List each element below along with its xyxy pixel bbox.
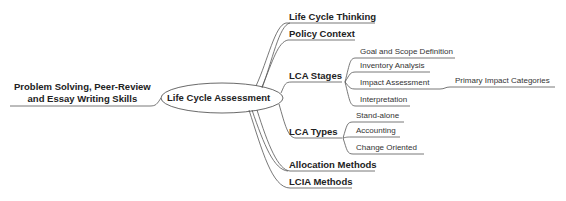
left-branch-line2: and Essay Writing Skills bbox=[14, 93, 151, 105]
node-lca-types[interactable]: LCA Types bbox=[289, 127, 338, 137]
node-change-oriented[interactable]: Change Oriented bbox=[356, 144, 417, 152]
node-interpretation[interactable]: Interpretation bbox=[360, 96, 407, 104]
center-node-label[interactable]: Life Cycle Assessment bbox=[167, 93, 270, 103]
link-lca-stages bbox=[281, 82, 342, 93]
node-lca-stages[interactable]: LCA Stages bbox=[289, 71, 342, 81]
node-primary-impact-categories[interactable]: Primary Impact Categories bbox=[455, 77, 550, 85]
node-life-cycle-thinking[interactable]: Life Cycle Thinking bbox=[289, 12, 376, 22]
node-inventory-analysis[interactable]: Inventory Analysis bbox=[360, 62, 424, 70]
node-impact-assessment[interactable]: Impact Assessment bbox=[360, 79, 429, 87]
node-accounting[interactable]: Accounting bbox=[356, 127, 396, 135]
left-branch-line1: Problem Solving, Peer-Review bbox=[14, 81, 151, 93]
node-stand-alone[interactable]: Stand-alone bbox=[356, 112, 399, 120]
node-lcia-methods[interactable]: LCIA Methods bbox=[289, 177, 353, 187]
node-allocation-methods[interactable]: Allocation Methods bbox=[289, 160, 377, 170]
left-branch-node[interactable]: Problem Solving, Peer-Review and Essay W… bbox=[14, 81, 151, 105]
node-policy-context[interactable]: Policy Context bbox=[289, 29, 355, 39]
node-goal-and-scope-definition[interactable]: Goal and Scope Definition bbox=[360, 48, 453, 56]
